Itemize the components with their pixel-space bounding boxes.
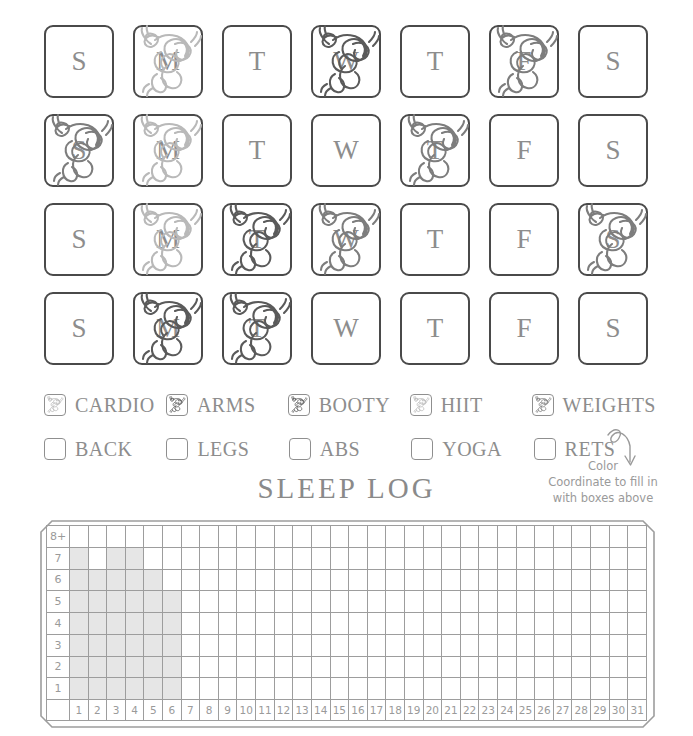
- sleep-cell[interactable]: [218, 591, 237, 613]
- sleep-cell[interactable]: [628, 547, 647, 569]
- workout-day-card[interactable]: S: [578, 25, 648, 98]
- sleep-cell[interactable]: [70, 613, 89, 635]
- sleep-cell[interactable]: [181, 547, 200, 569]
- sleep-cell[interactable]: [460, 591, 479, 613]
- sleep-cell[interactable]: [237, 678, 256, 700]
- sleep-cell[interactable]: [572, 613, 591, 635]
- sleep-cell[interactable]: [386, 569, 405, 591]
- sleep-cell[interactable]: [386, 656, 405, 678]
- sleep-cell[interactable]: [237, 526, 256, 548]
- sleep-cell[interactable]: [423, 613, 442, 635]
- sleep-cell[interactable]: [311, 591, 330, 613]
- sleep-cell[interactable]: [404, 613, 423, 635]
- workout-day-card[interactable]: W: [311, 25, 381, 98]
- sleep-cell[interactable]: [88, 526, 107, 548]
- sleep-cell[interactable]: [572, 678, 591, 700]
- sleep-cell[interactable]: [311, 547, 330, 569]
- sleep-cell[interactable]: [237, 569, 256, 591]
- sleep-cell[interactable]: [479, 591, 498, 613]
- legend-swatch-filled[interactable]: [532, 394, 554, 416]
- sleep-cell[interactable]: [200, 678, 219, 700]
- sleep-cell[interactable]: [200, 656, 219, 678]
- legend-item-yoga[interactable]: YOGA: [411, 438, 533, 461]
- sleep-cell[interactable]: [349, 526, 368, 548]
- sleep-cell[interactable]: [516, 634, 535, 656]
- workout-day-card[interactable]: M: [133, 25, 203, 98]
- legend-item-weights[interactable]: WEIGHTS: [532, 394, 656, 417]
- sleep-cell[interactable]: [404, 591, 423, 613]
- sleep-cell[interactable]: [442, 656, 461, 678]
- sleep-cell[interactable]: [591, 547, 610, 569]
- sleep-cell[interactable]: [498, 547, 517, 569]
- sleep-cell[interactable]: [256, 526, 275, 548]
- sleep-cell[interactable]: [423, 569, 442, 591]
- sleep-cell[interactable]: [479, 613, 498, 635]
- sleep-cell[interactable]: [460, 547, 479, 569]
- sleep-cell[interactable]: [293, 613, 312, 635]
- sleep-cell[interactable]: [535, 569, 554, 591]
- workout-day-card[interactable]: S: [578, 203, 648, 276]
- sleep-cell[interactable]: [423, 634, 442, 656]
- sleep-cell[interactable]: [516, 613, 535, 635]
- sleep-cell[interactable]: [367, 591, 386, 613]
- legend-item-back[interactable]: BACK: [44, 438, 166, 461]
- sleep-cell[interactable]: [386, 678, 405, 700]
- sleep-cell[interactable]: [498, 678, 517, 700]
- sleep-cell[interactable]: [628, 613, 647, 635]
- sleep-cell[interactable]: [479, 569, 498, 591]
- sleep-cell[interactable]: [460, 526, 479, 548]
- sleep-cell[interactable]: [609, 526, 628, 548]
- workout-day-card[interactable]: M: [133, 203, 203, 276]
- sleep-cell[interactable]: [107, 656, 126, 678]
- sleep-cell[interactable]: [479, 634, 498, 656]
- sleep-cell[interactable]: [330, 569, 349, 591]
- sleep-cell[interactable]: [591, 656, 610, 678]
- sleep-cell[interactable]: [609, 634, 628, 656]
- sleep-cell[interactable]: [498, 634, 517, 656]
- sleep-cell[interactable]: [144, 613, 163, 635]
- sleep-cell[interactable]: [609, 547, 628, 569]
- sleep-cell[interactable]: [274, 526, 293, 548]
- sleep-cell[interactable]: [144, 656, 163, 678]
- sleep-cell[interactable]: [423, 678, 442, 700]
- sleep-cell[interactable]: [88, 547, 107, 569]
- workout-day-card[interactable]: T: [222, 203, 292, 276]
- workout-day-card[interactable]: T: [222, 292, 292, 365]
- sleep-cell[interactable]: [163, 591, 182, 613]
- sleep-cell[interactable]: [311, 526, 330, 548]
- sleep-cell[interactable]: [628, 634, 647, 656]
- sleep-cell[interactable]: [516, 678, 535, 700]
- sleep-cell[interactable]: [107, 634, 126, 656]
- sleep-cell[interactable]: [367, 613, 386, 635]
- sleep-cell[interactable]: [163, 547, 182, 569]
- sleep-cell[interactable]: [349, 591, 368, 613]
- sleep-cell[interactable]: [367, 569, 386, 591]
- sleep-cell[interactable]: [70, 569, 89, 591]
- workout-day-card[interactable]: F: [489, 114, 559, 187]
- sleep-cell[interactable]: [181, 613, 200, 635]
- sleep-cell[interactable]: [516, 526, 535, 548]
- sleep-cell[interactable]: [591, 569, 610, 591]
- sleep-cell[interactable]: [349, 678, 368, 700]
- sleep-cell[interactable]: [256, 591, 275, 613]
- sleep-cell[interactable]: [70, 547, 89, 569]
- legend-swatch-filled[interactable]: [288, 394, 310, 416]
- sleep-cell[interactable]: [181, 591, 200, 613]
- sleep-cell[interactable]: [274, 547, 293, 569]
- legend-swatch-filled[interactable]: [410, 394, 432, 416]
- workout-day-card[interactable]: M: [133, 114, 203, 187]
- sleep-cell[interactable]: [330, 547, 349, 569]
- sleep-cell[interactable]: [311, 569, 330, 591]
- sleep-cell[interactable]: [572, 569, 591, 591]
- workout-day-card[interactable]: S: [44, 25, 114, 98]
- sleep-cell[interactable]: [628, 569, 647, 591]
- sleep-cell[interactable]: [144, 591, 163, 613]
- sleep-cell[interactable]: [535, 547, 554, 569]
- sleep-cell[interactable]: [591, 613, 610, 635]
- sleep-cell[interactable]: [479, 547, 498, 569]
- sleep-cell[interactable]: [256, 656, 275, 678]
- workout-day-card[interactable]: S: [578, 114, 648, 187]
- sleep-cell[interactable]: [218, 526, 237, 548]
- sleep-cell[interactable]: [274, 569, 293, 591]
- workout-day-card[interactable]: T: [400, 292, 470, 365]
